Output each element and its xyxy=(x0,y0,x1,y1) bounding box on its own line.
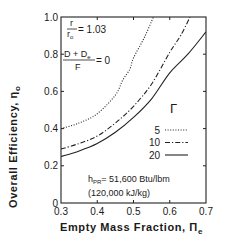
radius-ratio-annotation: r ro = 1.03 xyxy=(67,18,107,40)
svg-text:D + De: D + De xyxy=(64,49,91,60)
svg-text:= 1.03: = 1.03 xyxy=(78,24,107,35)
y-tick-label: 0.6 xyxy=(44,86,58,97)
efficiency-chart: 00.20.40.60.81.0 0.30.40.50.60.7 Overall… xyxy=(0,0,226,246)
series-line-gamma-10 xyxy=(61,17,190,149)
legend: Γ 51020 xyxy=(149,101,188,161)
legend-label: 5 xyxy=(154,125,160,136)
y-tick-label: 1.0 xyxy=(44,12,58,23)
y-tick-label: 0.8 xyxy=(44,49,58,60)
heating-value-annotation: hPR= 51,600 Btu/lbm (120,000 kJ/kg) xyxy=(88,174,170,198)
svg-text:r: r xyxy=(70,18,73,28)
svg-text:= 0: = 0 xyxy=(96,55,111,66)
y-tick-label: 0.4 xyxy=(44,123,58,134)
svg-text:(120,000 kJ/kg): (120,000 kJ/kg) xyxy=(88,188,150,198)
y-axis-title: Overall Efficiency, ηo xyxy=(7,86,22,208)
x-tick-label: 0.6 xyxy=(163,206,177,217)
legend-label: 20 xyxy=(149,150,161,161)
x-axis-title: Empty Mass Fraction, Πe xyxy=(60,221,203,236)
svg-text:F: F xyxy=(75,62,81,72)
legend-label: 10 xyxy=(149,137,161,148)
data-series xyxy=(61,17,206,157)
x-tick-label: 0.4 xyxy=(90,206,104,217)
svg-text:hPR= 51,600 Btu/lbm: hPR= 51,600 Btu/lbm xyxy=(88,174,170,185)
legend-title: Γ xyxy=(170,101,177,116)
x-tick-label: 0.3 xyxy=(54,206,68,217)
svg-text:ro: ro xyxy=(67,29,74,40)
x-tick-label: 0.7 xyxy=(199,206,213,217)
x-tick-label: 0.5 xyxy=(127,206,141,217)
y-tick-label: 0.2 xyxy=(44,160,58,171)
drag-ratio-annotation: D + De F = 0 xyxy=(63,49,111,72)
